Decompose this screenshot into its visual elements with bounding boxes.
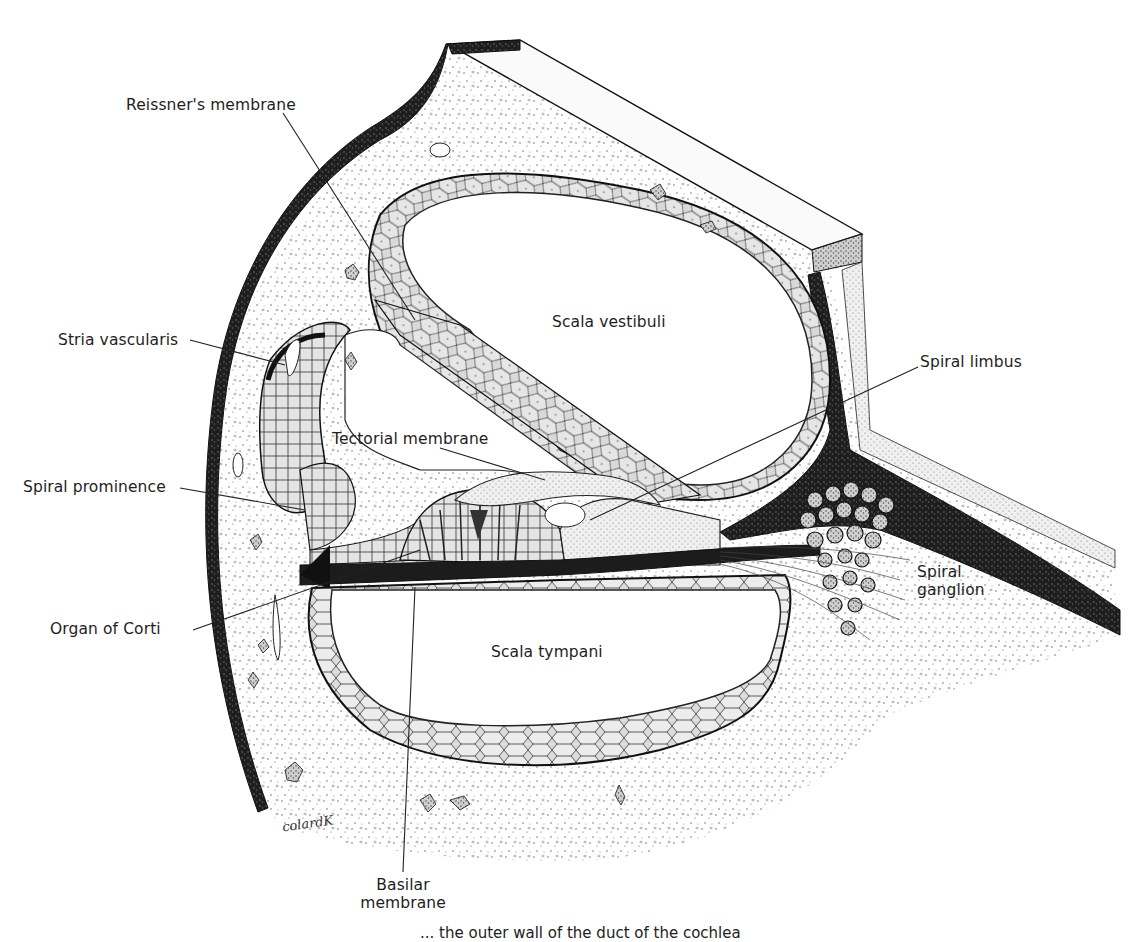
figure-caption-cut-off: ... the outer wall of the duct of the co… [420, 924, 741, 942]
label-tectorial-membrane: Tectorial membrane [332, 430, 488, 448]
label-basilar-membrane: Basilar membrane [355, 876, 451, 912]
label-scala-vestibuli: Scala vestibuli [552, 313, 666, 331]
label-spiral-ganglion-line1: Spiral [917, 563, 985, 581]
label-spiral-ganglion-line2: ganglion [917, 581, 985, 599]
label-basilar-membrane-line2: membrane [355, 894, 451, 912]
label-spiral-prominence: Spiral prominence [23, 478, 166, 496]
label-spiral-ganglion: Spiral ganglion [917, 563, 985, 599]
label-scala-tympani: Scala tympani [491, 643, 603, 661]
label-organ-of-corti: Organ of Corti [50, 620, 161, 638]
label-stria-vascularis: Stria vascularis [58, 331, 178, 349]
label-spiral-limbus: Spiral limbus [920, 353, 1022, 371]
label-reissners-membrane: Reissner's membrane [126, 96, 296, 114]
label-basilar-membrane-line1: Basilar [355, 876, 451, 894]
